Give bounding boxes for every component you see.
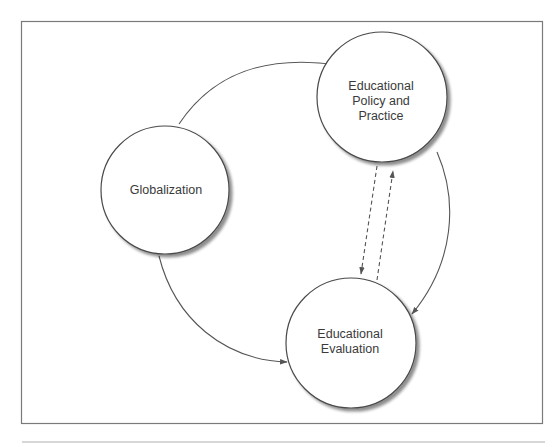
- label-line: Policy and: [348, 94, 413, 109]
- diagram-frame: [22, 22, 543, 424]
- diagram-canvas: [0, 0, 560, 447]
- label-globalization: Globalization: [130, 183, 202, 198]
- label-line: Evaluation: [317, 342, 382, 357]
- label-line: Educational: [317, 327, 382, 342]
- label-line: Educational: [348, 79, 413, 94]
- label-educational-evaluation: Educational Evaluation: [317, 327, 382, 357]
- label-educational-policy-and-practice: Educational Policy and Practice: [348, 79, 413, 124]
- label-line: Practice: [348, 109, 413, 124]
- label-line: Globalization: [130, 183, 202, 198]
